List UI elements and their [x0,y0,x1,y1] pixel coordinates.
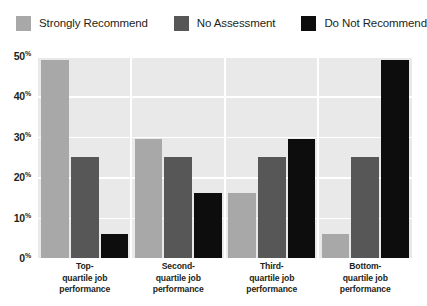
legend-swatch-do-not-recommend [301,16,316,31]
legend-item-strongly-recommend: Strongly Recommend [16,14,148,32]
y-axis-tick-10: 10% [14,211,31,224]
bars-layer [38,56,412,258]
bar-chart: Strongly Recommend No Assessment Do Not … [0,0,427,306]
chart-legend: Strongly Recommend No Assessment Do Not … [16,14,416,32]
x-axis-label-line: performance [225,284,319,296]
y-axis-tick-50: 50% [14,50,31,63]
x-axis-label-line: performance [319,284,413,296]
bar-2-3 [194,193,222,258]
x-axis-label-4: Bottom-quartile jobperformance [319,261,413,296]
x-axis-label-3: Third-quartile jobperformance [225,261,319,296]
y-axis-tick-40: 40% [14,90,31,103]
bar-1-3 [101,234,129,258]
y-axis-tick-0: 0% [19,252,31,265]
legend-item-do-not-recommend: Do Not Recommend [301,14,427,32]
x-axis-label-line: performance [38,284,132,296]
y-axis-tick-20: 20% [14,171,31,184]
plot-area [38,56,412,258]
x-axis-label-line: quartile job [132,273,226,285]
x-axis-label-line: Top- [38,261,132,273]
x-axis-label-line: Bottom- [319,261,413,273]
legend-item-no-assessment: No Assessment [174,14,276,32]
legend-swatch-no-assessment [174,16,189,31]
y-axis-tick-30: 30% [14,131,31,144]
bar-2-1 [135,139,163,258]
y-axis: 50%40%30%20%10%0% [0,56,34,258]
x-axis-label-1: Top-quartile jobperformance [38,261,132,296]
x-axis-label-line: quartile job [319,273,413,285]
x-axis-label-line: Third- [225,261,319,273]
bar-4-3 [381,60,409,258]
x-axis: Top-quartile jobperformanceSecond-quarti… [38,261,412,306]
x-axis-label-line: performance [132,284,226,296]
bar-2-2 [164,157,192,258]
x-axis-label-2: Second-quartile jobperformance [132,261,226,296]
x-axis-label-line: quartile job [38,273,132,285]
bar-4-1 [322,234,350,258]
x-axis-label-line: quartile job [225,273,319,285]
bar-3-2 [258,157,286,258]
bar-3-1 [228,193,256,258]
legend-label-strongly-recommend: Strongly Recommend [39,16,148,31]
bar-1-1 [41,60,69,258]
legend-swatch-strongly-recommend [16,16,31,31]
bar-4-2 [351,157,379,258]
x-axis-label-line: Second- [132,261,226,273]
legend-label-do-not-recommend: Do Not Recommend [324,16,427,31]
legend-label-no-assessment: No Assessment [197,16,276,31]
bar-3-3 [288,139,316,258]
bar-1-2 [71,157,99,258]
